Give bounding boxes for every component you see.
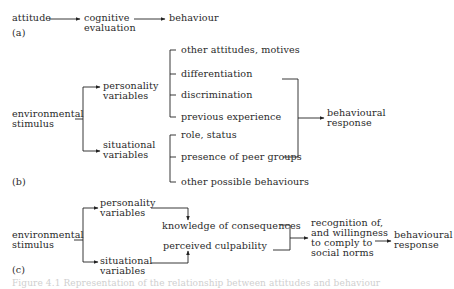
node-perceived-culpability: perceived culpability bbox=[163, 241, 267, 252]
node-attitude: attitude bbox=[12, 13, 51, 24]
panel-label-a: (a) bbox=[12, 28, 26, 39]
item-peer-groups: presence of peer groups bbox=[181, 152, 302, 163]
node-behavioural-response-line2: response bbox=[327, 118, 372, 129]
item-other-behaviours: other possible behaviours bbox=[181, 177, 309, 188]
node-c-environmental-stimulus-line2: stimulus bbox=[12, 240, 54, 251]
node-personality-variables-line2: variables bbox=[103, 91, 148, 102]
node-cognitive-evaluation-line2: evaluation bbox=[84, 23, 136, 34]
item-role-status: role, status bbox=[181, 130, 237, 141]
node-environmental-stimulus-line2: stimulus bbox=[12, 119, 54, 130]
figure-caption: Figure 4.1 Representation of the relatio… bbox=[12, 278, 380, 289]
item-discrimination: discrimination bbox=[181, 90, 253, 101]
node-knowledge-of-consequences: knowledge of consequences bbox=[162, 221, 301, 232]
panel-label-b: (b) bbox=[12, 177, 26, 188]
node-c-behavioural-response-line2: response bbox=[394, 240, 439, 251]
node-c-personality-variables-line2: variables bbox=[100, 208, 145, 219]
item-other-attitudes: other attitudes, motives bbox=[181, 45, 300, 56]
node-behaviour: behaviour bbox=[169, 13, 219, 24]
node-norms-line4: social norms bbox=[311, 248, 374, 259]
item-differentiation: differentiation bbox=[181, 69, 252, 80]
panel-label-c: (c) bbox=[12, 265, 25, 276]
node-c-situational-variables-line2: variables bbox=[100, 266, 145, 277]
node-situational-variables-line2: variables bbox=[103, 150, 148, 161]
item-previous-experience: previous experience bbox=[181, 112, 281, 123]
